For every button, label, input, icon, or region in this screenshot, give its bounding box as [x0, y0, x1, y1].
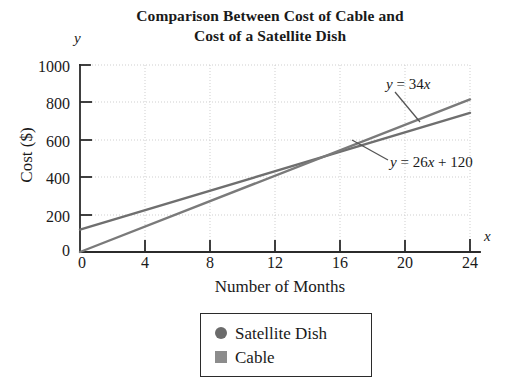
annotation-cable-operator: = 26 — [397, 154, 428, 170]
legend-label-satellite-dish: Satellite Dish — [235, 325, 327, 342]
legend-item-satellite-dish: Satellite Dish — [215, 321, 371, 345]
annotation-satellite-var-y: y — [386, 76, 393, 92]
annotation-satellite-var-x: x — [424, 76, 431, 92]
x-ticks — [145, 240, 405, 252]
chart-figure: Comparison Between Cost of Cable and Cos… — [0, 0, 521, 377]
legend-marker-circle-icon — [215, 327, 227, 339]
annotation-equation-cable: y = 26x + 120 — [390, 154, 473, 171]
y-ticks — [80, 102, 92, 215]
annotation-equation-satellite: y = 34x — [386, 76, 430, 93]
legend-marker-square-icon — [215, 351, 227, 363]
annotation-cable-constant: + 120 — [434, 154, 472, 170]
annotation-satellite-operator: = 34 — [393, 76, 424, 92]
annotation-cable-var-y: y — [390, 154, 397, 170]
chart-legend: Satellite Dish Cable — [200, 313, 372, 377]
legend-label-cable: Cable — [235, 349, 275, 366]
leader-line-satellite — [395, 92, 420, 122]
legend-item-cable: Cable — [215, 345, 371, 369]
